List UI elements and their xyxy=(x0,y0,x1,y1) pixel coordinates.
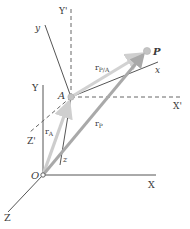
label-Y-prime: Y' xyxy=(58,6,67,16)
label-z: z xyxy=(62,155,68,164)
label-Z: Z xyxy=(4,212,11,223)
label-rA: rA xyxy=(45,127,54,137)
label-x: x xyxy=(155,65,160,75)
point-A xyxy=(68,94,74,100)
point-P xyxy=(143,47,150,54)
label-A: A xyxy=(57,90,65,101)
x-axis xyxy=(71,62,158,97)
label-Z-prime: Z' xyxy=(27,136,36,146)
point-O xyxy=(41,173,45,177)
vector-rP xyxy=(43,55,143,175)
label-X: X xyxy=(148,179,155,190)
label-O: O xyxy=(31,170,39,181)
relative-motion-diagram: O A P X Y Z X' Y' Z' x y z rA rP rP/A xyxy=(0,0,190,229)
label-y: y xyxy=(34,23,41,33)
label-X-prime: X' xyxy=(173,101,182,111)
vector-rA xyxy=(43,102,69,175)
label-Y: Y xyxy=(31,82,39,93)
label-P: P xyxy=(152,46,161,57)
label-rPA: rP/A xyxy=(95,63,110,73)
vector-rPA xyxy=(71,54,142,97)
label-rP: rP xyxy=(95,119,103,129)
y-axis xyxy=(45,25,71,97)
